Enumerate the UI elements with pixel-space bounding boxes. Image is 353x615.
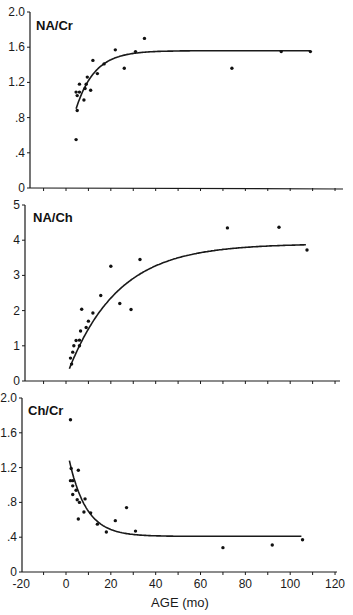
data-point <box>78 338 81 341</box>
y-tick-label: .4 <box>15 146 25 160</box>
x-tick-label: 40 <box>149 577 163 591</box>
x-axis-tick-labels: -20020406080100120 <box>12 577 345 591</box>
data-point <box>96 522 99 525</box>
data-point <box>89 511 92 514</box>
data-point <box>102 62 105 65</box>
data-point <box>105 530 108 533</box>
x-tick-label: 120 <box>325 577 345 591</box>
data-point <box>79 329 82 332</box>
data-point <box>301 538 304 541</box>
data-point <box>86 75 89 78</box>
x-tick-label: 80 <box>239 577 253 591</box>
data-point <box>134 529 137 532</box>
data-point <box>74 138 77 141</box>
data-point <box>69 418 72 421</box>
data-point <box>114 519 117 522</box>
data-point <box>271 543 274 546</box>
panel-title: NA/Ch <box>33 210 73 225</box>
y-tick-label: 2 <box>13 304 20 318</box>
data-point <box>72 344 75 347</box>
panel-title: NA/Cr <box>36 18 73 33</box>
data-point <box>134 50 137 53</box>
y-tick-label: 4 <box>13 233 20 247</box>
x-axis-label: AGE (mo) <box>151 595 209 610</box>
y-tick-label: 3 <box>13 268 20 282</box>
data-point <box>74 339 77 342</box>
y-tick-label: 1.6 <box>0 426 17 440</box>
data-point <box>226 226 229 229</box>
x-tick-label: 0 <box>63 577 70 591</box>
data-point <box>230 67 233 70</box>
data-point <box>114 48 117 51</box>
data-point <box>71 350 74 353</box>
data-point <box>78 82 81 85</box>
data-point <box>83 87 86 90</box>
data-point <box>82 510 85 513</box>
fit-curve <box>76 51 310 109</box>
data-point <box>82 98 85 101</box>
y-tick-label: 0 <box>13 374 20 388</box>
data-point <box>277 225 280 228</box>
fit-curve <box>69 461 301 537</box>
fit-curve <box>69 245 306 369</box>
y-tick-label: 2.0 <box>8 5 25 19</box>
panel-ch-cr: 0.4.81.21.62.0Ch/Cr <box>0 391 337 579</box>
y-tick-label: 1.2 <box>0 461 17 475</box>
y-tick-label: 5 <box>13 198 20 212</box>
data-point <box>143 37 146 40</box>
data-point <box>91 59 94 62</box>
y-tick-label: .4 <box>7 530 17 544</box>
data-point <box>76 109 79 112</box>
data-point <box>71 493 74 496</box>
x-tick-label: 20 <box>104 577 118 591</box>
data-point <box>74 90 77 93</box>
data-point <box>89 89 92 92</box>
data-point <box>91 311 94 314</box>
data-point <box>84 326 87 329</box>
panel-title: Ch/Cr <box>28 403 63 418</box>
data-point <box>309 50 312 53</box>
data-point <box>109 265 112 268</box>
x-tick-label: 100 <box>280 577 300 591</box>
y-tick-label: 1 <box>13 339 20 353</box>
data-point <box>129 308 132 311</box>
data-point <box>83 497 86 500</box>
data-point <box>71 479 74 482</box>
data-point <box>80 307 83 310</box>
data-point <box>78 90 81 93</box>
data-point <box>305 248 308 251</box>
panel-na-cr: 0.4.81.21.62.0NA/Cr <box>8 5 343 195</box>
y-tick-label: 2.0 <box>0 391 17 405</box>
data-point <box>78 501 81 504</box>
y-tick-label: 1.2 <box>8 75 25 89</box>
data-point <box>76 498 79 501</box>
x-tick-label: -20 <box>12 577 30 591</box>
y-tick-label: .8 <box>15 111 25 125</box>
data-point <box>78 344 81 347</box>
y-tick-label: 1.6 <box>8 40 25 54</box>
data-point <box>221 546 224 549</box>
data-point <box>84 82 87 85</box>
data-point <box>71 484 74 487</box>
y-tick-label: 0 <box>18 181 25 195</box>
x-tick-label: 60 <box>194 577 208 591</box>
panel-na-ch: 012345NA/Ch <box>13 198 340 388</box>
data-point <box>77 517 80 520</box>
data-point <box>96 72 99 75</box>
data-point <box>70 362 73 365</box>
data-point <box>99 294 102 297</box>
data-point <box>280 50 283 53</box>
data-point <box>69 356 72 359</box>
x-axis <box>30 188 343 189</box>
figure: 0.4.81.21.62.0NA/Cr 012345NA/Ch 0.4.81.2… <box>0 0 353 615</box>
data-point <box>138 258 141 261</box>
data-point <box>87 319 90 322</box>
data-point <box>123 67 126 70</box>
y-tick-label: .8 <box>7 495 17 509</box>
data-point <box>125 506 128 509</box>
data-point <box>74 489 77 492</box>
data-point <box>76 94 79 97</box>
data-point <box>69 467 72 470</box>
data-point <box>77 469 80 472</box>
data-point <box>118 302 121 305</box>
